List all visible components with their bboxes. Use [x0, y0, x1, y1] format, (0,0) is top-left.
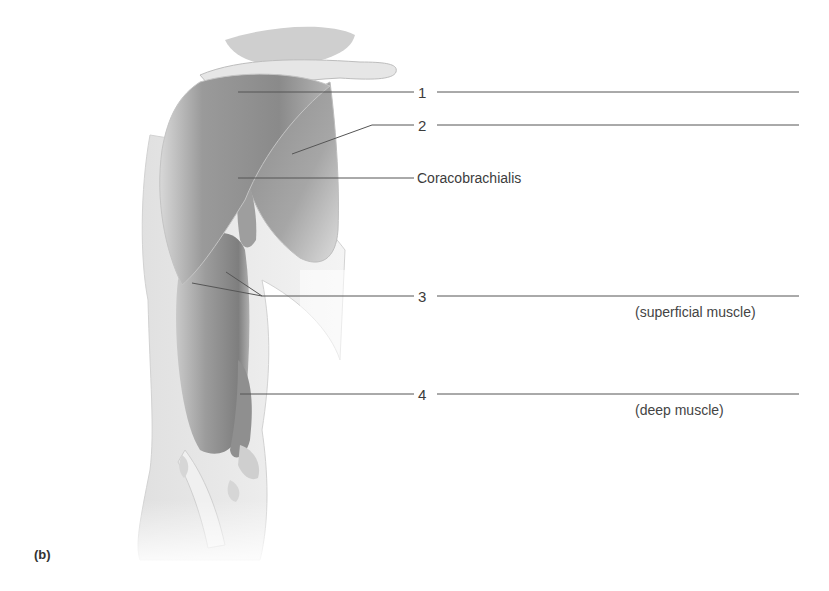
label-2: 2 [415, 118, 429, 133]
label-4: 4 [415, 387, 429, 402]
label-3: 3 [415, 289, 429, 304]
note-deep-muscle: (deep muscle) [632, 403, 727, 417]
panel-label: (b) [34, 547, 51, 562]
label-1: 1 [415, 85, 429, 100]
note-superficial-muscle: (superficial muscle) [632, 305, 759, 319]
label-coracobrachialis: Coracobrachialis [414, 171, 524, 185]
anatomy-figure: 1 2 Coracobrachialis 3 4 (superficial mu… [0, 0, 829, 591]
